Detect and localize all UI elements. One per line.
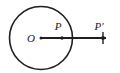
point-label-O: O (27, 32, 35, 44)
point-dot-P (60, 36, 63, 39)
geometry-figure: O P P′ (0, 0, 120, 73)
point-label-Pprime: P′ (93, 20, 104, 32)
point-label-P: P (54, 20, 62, 32)
figure-canvas: O P P′ (0, 0, 120, 73)
point-dot-O (40, 37, 43, 40)
point-dot-Pprime (101, 36, 105, 40)
